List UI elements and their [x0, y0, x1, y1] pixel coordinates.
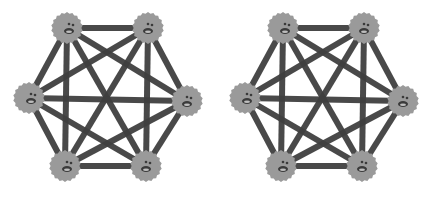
- node-bottom-right: [130, 150, 161, 182]
- tongue-icon: [143, 169, 149, 171]
- node-left: [13, 82, 44, 114]
- node-top-right: [132, 12, 163, 44]
- tongue-icon: [282, 31, 288, 33]
- edge-top-right-bottom-right: [146, 28, 148, 166]
- eye-icon: [406, 97, 409, 100]
- face-body-icon: [51, 12, 82, 44]
- eye-icon: [66, 161, 69, 164]
- eye-icon: [34, 94, 37, 97]
- eye-icon: [190, 97, 193, 100]
- eye-icon: [361, 161, 364, 164]
- node-bottom-left: [265, 150, 296, 182]
- node-right: [387, 85, 418, 117]
- eye-icon: [402, 96, 405, 99]
- tongue-icon: [400, 104, 406, 106]
- eye-icon: [70, 162, 73, 165]
- tongue-icon: [64, 169, 70, 171]
- eye-icon: [151, 24, 154, 27]
- face-body-icon: [49, 150, 80, 182]
- face-body-icon: [13, 82, 44, 114]
- tongue-icon: [244, 101, 250, 103]
- tongue-icon: [280, 169, 286, 171]
- complete-graph-diagram: [0, 0, 430, 197]
- node-top-left: [267, 12, 298, 44]
- tongue-icon: [359, 169, 365, 171]
- eye-icon: [145, 161, 148, 164]
- eye-icon: [284, 23, 287, 26]
- eye-icon: [286, 162, 289, 165]
- graph-panel-left: [13, 12, 202, 182]
- eye-icon: [282, 161, 285, 164]
- edge-left-right: [245, 98, 403, 101]
- tongue-icon: [145, 31, 151, 33]
- face-body-icon: [267, 12, 298, 44]
- tongue-icon: [184, 104, 190, 106]
- eye-icon: [250, 94, 253, 97]
- eye-icon: [72, 24, 75, 27]
- graph-panel-right: [229, 12, 418, 182]
- eye-icon: [365, 162, 368, 165]
- node-right: [171, 85, 202, 117]
- diagram-stage: [0, 0, 430, 197]
- node-bottom-left: [49, 150, 80, 182]
- eye-icon: [363, 23, 366, 26]
- node-top-left: [51, 12, 82, 44]
- eye-icon: [147, 23, 150, 26]
- face-body-icon: [229, 82, 260, 114]
- eye-icon: [367, 24, 370, 27]
- eye-icon: [288, 24, 291, 27]
- eye-icon: [246, 93, 249, 96]
- node-top-right: [348, 12, 379, 44]
- edge-top-right-bottom-right: [362, 28, 364, 166]
- eye-icon: [68, 23, 71, 26]
- face-body-icon: [265, 150, 296, 182]
- eye-icon: [149, 162, 152, 165]
- tongue-icon: [361, 31, 367, 33]
- tongue-icon: [28, 101, 34, 103]
- eye-icon: [30, 93, 33, 96]
- node-bottom-right: [346, 150, 377, 182]
- eye-icon: [186, 96, 189, 99]
- node-left: [229, 82, 260, 114]
- edge-left-right: [29, 98, 187, 101]
- tongue-icon: [66, 31, 72, 33]
